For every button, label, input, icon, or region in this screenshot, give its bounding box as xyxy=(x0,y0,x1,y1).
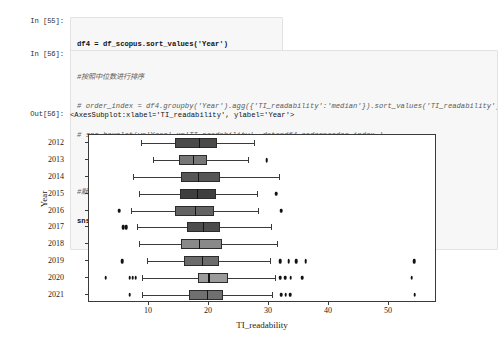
outlier-point xyxy=(265,158,268,163)
median-line xyxy=(203,222,204,232)
boxplot-figure: Year TI_readability 10203040502012201320… xyxy=(18,128,488,343)
outlier-point xyxy=(279,259,282,264)
whisker-cap xyxy=(272,292,273,298)
x-tick-mark xyxy=(268,302,269,305)
whisker xyxy=(142,295,189,296)
y-tick-label-2021: 2021 xyxy=(4,289,64,298)
y-tick-label-2019: 2019 xyxy=(4,256,64,265)
whisker-cap xyxy=(248,157,249,163)
outlier-point xyxy=(118,208,121,213)
outlier-point xyxy=(279,276,282,281)
median-line xyxy=(208,273,209,283)
outlier-point xyxy=(414,292,417,297)
y-tick-label-2014: 2014 xyxy=(4,172,64,181)
whisker xyxy=(139,244,181,245)
whisker xyxy=(219,261,271,262)
median-line xyxy=(198,172,199,182)
whisker xyxy=(133,177,180,178)
whisker-cap xyxy=(137,224,138,230)
y-tick-label-2020: 2020 xyxy=(4,272,64,281)
outlier-point xyxy=(280,208,283,213)
x-tick-mark xyxy=(208,302,209,305)
outlier-point xyxy=(304,259,307,264)
notebook-cell-out-56: Out[56]: <AxesSubplot:xlabel='TI_readabi… xyxy=(18,110,488,121)
x-tick-mark xyxy=(148,302,149,305)
y-tick-mark xyxy=(85,210,88,211)
whisker-cap xyxy=(270,258,271,264)
x-axis-label: TI_readability xyxy=(88,320,436,330)
y-tick-mark xyxy=(85,159,88,160)
whisker xyxy=(142,278,198,279)
whisker xyxy=(220,177,279,178)
cell-prompt-out-56: Out[56]: xyxy=(18,110,70,120)
notebook-page: In [55]: df4 = df_scopus.sort_values('Ye… xyxy=(0,0,504,348)
whisker xyxy=(139,194,180,195)
whisker-cap xyxy=(257,191,258,197)
x-tick-mark xyxy=(388,302,389,305)
whisker-cap xyxy=(139,191,140,197)
whisker xyxy=(223,295,272,296)
box-2018 xyxy=(181,239,221,249)
whisker xyxy=(207,160,248,161)
y-tick-label-2017: 2017 xyxy=(4,222,64,231)
outlier-point xyxy=(284,276,287,281)
x-tick-label: 10 xyxy=(144,306,152,315)
whisker xyxy=(217,143,254,144)
whisker-cap xyxy=(142,292,143,298)
median-line xyxy=(197,189,198,199)
whisker-cap xyxy=(153,157,154,163)
outlier-point xyxy=(280,292,283,297)
outlier-point xyxy=(121,259,124,264)
x-tick-label: 20 xyxy=(204,306,212,315)
y-tick-label-2015: 2015 xyxy=(4,188,64,197)
cell-prompt-in-55: In [55]: xyxy=(18,17,70,27)
whisker xyxy=(141,143,176,144)
whisker xyxy=(153,160,179,161)
whisker-cap xyxy=(279,174,280,180)
y-tick-label-2012: 2012 xyxy=(4,138,64,147)
y-tick-mark xyxy=(85,226,88,227)
y-tick-label-2013: 2013 xyxy=(4,155,64,164)
plot-area xyxy=(88,134,436,302)
y-tick-label-2016: 2016 xyxy=(4,205,64,214)
whisker-cap xyxy=(254,140,255,146)
whisker-cap xyxy=(277,241,278,247)
whisker xyxy=(228,278,275,279)
y-tick-mark xyxy=(85,277,88,278)
whisker xyxy=(222,244,277,245)
whisker-cap xyxy=(142,275,143,281)
x-tick-label: 30 xyxy=(264,306,272,315)
x-tick-mark xyxy=(328,302,329,305)
whisker-cap xyxy=(133,174,134,180)
median-line xyxy=(199,138,200,148)
outlier-point xyxy=(413,259,416,264)
cell-prompt-in-56: In [56]: xyxy=(18,50,70,60)
y-tick-mark xyxy=(85,294,88,295)
x-tick-label: 40 xyxy=(324,306,332,315)
code-comment-line: #按照中位数进行排序 xyxy=(77,73,492,83)
whisker xyxy=(220,227,271,228)
box-2020 xyxy=(198,273,227,283)
box-2014 xyxy=(181,172,220,182)
median-line xyxy=(202,256,203,266)
median-line xyxy=(207,290,208,300)
whisker-cap xyxy=(141,140,142,146)
whisker-cap xyxy=(147,258,148,264)
cell-output-text: <AxesSubplot:xlabel='TI_readability', yl… xyxy=(70,110,294,121)
whisker xyxy=(131,211,175,212)
median-line xyxy=(193,155,194,165)
y-tick-mark xyxy=(85,260,88,261)
outlier-point xyxy=(285,292,288,297)
outlier-point xyxy=(275,192,278,197)
y-tick-label-2018: 2018 xyxy=(4,239,64,248)
median-line xyxy=(195,206,196,216)
whisker xyxy=(214,211,258,212)
whisker xyxy=(147,261,185,262)
whisker xyxy=(137,227,187,228)
x-tick-label: 50 xyxy=(384,306,392,315)
whisker xyxy=(216,194,257,195)
outlier-point xyxy=(288,259,291,264)
outlier-point xyxy=(301,276,304,281)
y-tick-mark xyxy=(85,193,88,194)
y-tick-mark xyxy=(85,176,88,177)
